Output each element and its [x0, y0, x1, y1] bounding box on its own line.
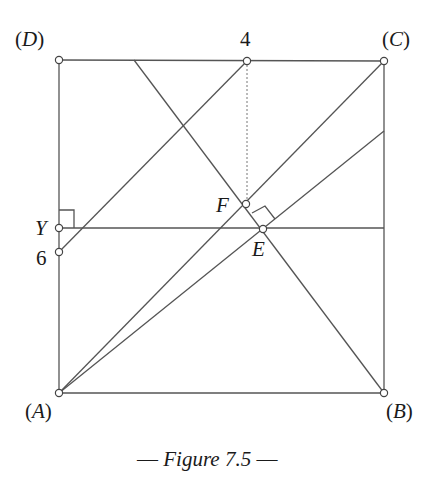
label-four: 4: [240, 27, 251, 51]
right-angle-mark-e: [252, 206, 275, 219]
label-c-letter: C: [389, 27, 404, 51]
diagonal-ac: [59, 61, 384, 393]
label-b: (B): [386, 399, 413, 423]
label-d: (D): [15, 27, 44, 51]
label-six: 6: [36, 246, 47, 270]
geometry-figure: (D) (C) (A) (B) 4 6 Y F E — Figure 7.5 —: [0, 0, 445, 497]
label-a-letter: A: [30, 399, 45, 423]
label-a: (A): [25, 399, 52, 423]
caption-dash-left: —: [136, 447, 159, 471]
line-a-to-bc: [59, 131, 384, 393]
line-six-four: [59, 61, 247, 252]
label-c: (C): [382, 27, 410, 51]
point-four: [243, 57, 250, 64]
caption-dash-right: —: [255, 447, 278, 471]
line-top-to-b: [134, 60, 384, 393]
label-f: F: [215, 193, 229, 217]
figure-caption: — Figure 7.5 —: [136, 447, 278, 471]
point-b: [380, 389, 387, 396]
point-f: [242, 200, 249, 207]
label-y: Y: [35, 216, 49, 240]
point-c: [380, 57, 387, 64]
point-six: [55, 248, 62, 255]
caption-title: Figure 7.5: [162, 447, 251, 471]
point-e: [259, 225, 266, 232]
point-y: [55, 224, 62, 231]
side-dc: [59, 60, 384, 61]
label-b-letter: B: [393, 399, 406, 423]
point-a: [55, 389, 62, 396]
point-d: [55, 56, 62, 63]
label-d-letter: D: [21, 27, 37, 51]
label-e: E: [251, 237, 265, 261]
